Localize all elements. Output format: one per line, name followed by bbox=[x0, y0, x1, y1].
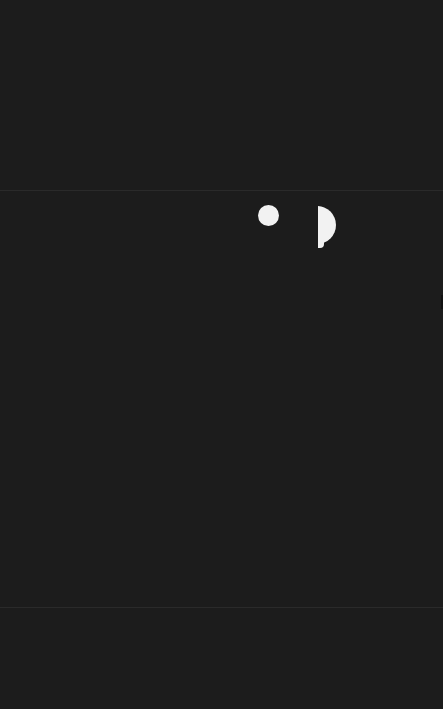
top-divider bbox=[0, 190, 443, 191]
bottom-divider bbox=[0, 607, 443, 608]
half-circle-icon bbox=[318, 206, 337, 248]
circle-dot-icon bbox=[258, 205, 279, 226]
